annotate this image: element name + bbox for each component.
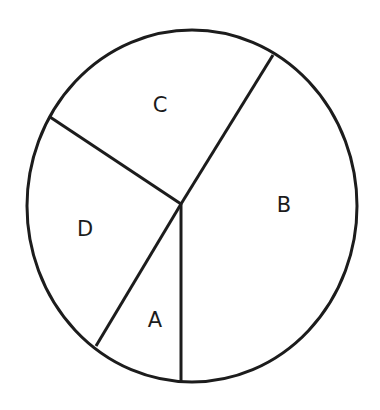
slice-label-a: A: [148, 308, 163, 332]
slice-label-d: D: [77, 217, 93, 241]
slice-label-c: C: [153, 93, 168, 117]
chart-background: [0, 0, 380, 410]
slice-label-b: B: [277, 193, 291, 217]
pie-chart: C B D A: [0, 0, 380, 410]
